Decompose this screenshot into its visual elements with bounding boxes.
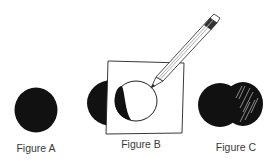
figure-c-label: Figure C [216, 141, 256, 153]
figure-a-label: Figure A [16, 142, 55, 154]
figure-b-group [87, 14, 220, 134]
diagram-canvas: Figure A Figure B Figure C [0, 0, 279, 161]
figure-b-label: Figure B [121, 138, 161, 150]
figure-c-left-circle [198, 83, 242, 127]
figure-c-group [198, 82, 263, 127]
pencil-icon [151, 14, 220, 88]
figure-a-circle [15, 88, 58, 133]
